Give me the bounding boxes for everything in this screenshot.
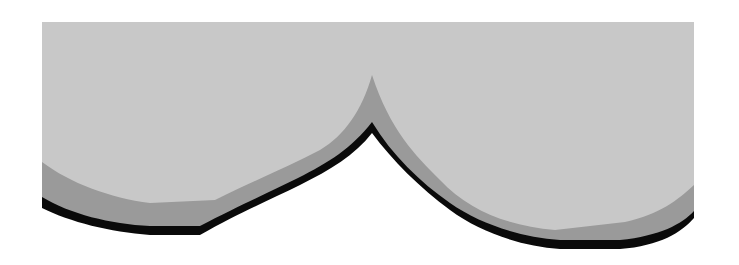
scalloped-shape-diagram <box>0 0 739 265</box>
